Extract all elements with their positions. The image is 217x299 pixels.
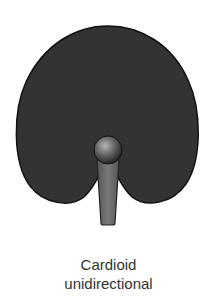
microphone-handle-icon xyxy=(97,160,119,225)
caption-line-2: unidirectional xyxy=(0,274,217,293)
diagram-caption: Cardioid unidirectional xyxy=(0,255,217,293)
caption-line-1: Cardioid xyxy=(0,255,217,274)
cardioid-diagram xyxy=(0,0,217,240)
microphone-head-icon xyxy=(94,136,122,164)
